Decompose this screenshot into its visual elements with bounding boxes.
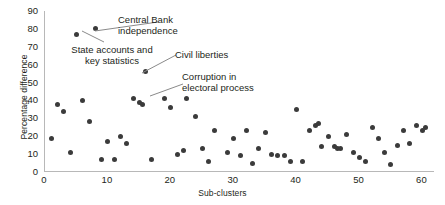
data-point xyxy=(363,159,368,164)
x-tick-label: 40 xyxy=(290,175,301,185)
data-point xyxy=(294,107,299,112)
y-tick-label: 40 xyxy=(12,95,38,105)
data-point xyxy=(175,152,180,157)
data-point xyxy=(423,125,428,130)
data-point xyxy=(256,146,261,151)
x-axis-title: Sub-clusters xyxy=(0,188,445,198)
data-point xyxy=(193,114,198,119)
data-point xyxy=(80,98,85,103)
data-point xyxy=(181,148,186,153)
x-tick-label: 10 xyxy=(102,175,113,185)
y-tick-label: 20 xyxy=(12,131,38,141)
data-point xyxy=(269,152,274,157)
x-tick-label: 60 xyxy=(416,175,427,185)
data-point xyxy=(61,109,66,114)
data-point xyxy=(87,119,92,124)
y-tick-label: 30 xyxy=(12,113,38,123)
annotation-state-accounts: State accounts and key statistics xyxy=(49,44,175,66)
data-point xyxy=(414,123,419,128)
data-point xyxy=(357,155,362,160)
data-point xyxy=(225,150,230,155)
data-point xyxy=(407,141,412,146)
data-point xyxy=(244,128,249,133)
data-point xyxy=(162,96,167,101)
data-point xyxy=(282,153,287,158)
data-point xyxy=(143,69,148,74)
data-point xyxy=(231,136,236,141)
y-tick-label: 0 xyxy=(12,167,38,177)
x-tick-label: 30 xyxy=(227,175,238,185)
data-point xyxy=(307,128,312,133)
data-point xyxy=(344,132,349,137)
data-point xyxy=(124,141,129,146)
x-tick-label: 50 xyxy=(353,175,364,185)
y-tick-label: 10 xyxy=(12,149,38,159)
data-point xyxy=(206,159,211,164)
data-point xyxy=(382,150,387,155)
data-point xyxy=(238,153,243,158)
y-tick-label: 60 xyxy=(12,60,38,70)
data-point xyxy=(131,96,136,101)
data-point xyxy=(68,150,73,155)
x-tick-label: 0 xyxy=(41,175,46,185)
data-point xyxy=(326,134,331,139)
data-point xyxy=(401,128,406,133)
x-tick-label: 20 xyxy=(165,175,176,185)
data-point xyxy=(395,143,400,148)
data-point xyxy=(316,121,321,126)
annotation-corruption: Corruption in electoral process xyxy=(182,71,254,93)
y-tick-label: 70 xyxy=(12,42,38,52)
data-point xyxy=(351,150,356,155)
data-point xyxy=(200,146,205,151)
data-point xyxy=(140,102,145,107)
data-point xyxy=(55,102,60,107)
data-point xyxy=(263,130,268,135)
data-point xyxy=(149,157,154,162)
data-point xyxy=(300,159,305,164)
y-axis-tick-labels: 0102030405060708090 xyxy=(8,0,38,205)
annotation-civil-liberties: Civil liberties xyxy=(175,49,228,60)
data-point xyxy=(275,153,280,158)
annotation-central-bank: Central Bank independence xyxy=(118,14,178,36)
data-point xyxy=(250,161,255,166)
data-point xyxy=(74,32,79,37)
y-tick-label: 90 xyxy=(12,6,38,16)
data-point xyxy=(93,26,98,31)
data-point xyxy=(184,96,189,101)
data-point xyxy=(288,159,293,164)
data-point xyxy=(49,136,54,141)
data-point xyxy=(370,125,375,130)
data-point xyxy=(105,139,110,144)
data-point xyxy=(99,157,104,162)
data-point xyxy=(168,105,173,110)
y-tick-label: 50 xyxy=(12,78,38,88)
data-point xyxy=(118,134,123,139)
data-point xyxy=(112,157,117,162)
data-point xyxy=(376,136,381,141)
y-tick-label: 80 xyxy=(12,24,38,34)
data-point xyxy=(388,162,393,167)
scatter-chart: Percentage difference 010203040506070809… xyxy=(0,0,445,205)
data-point xyxy=(319,144,324,149)
data-point xyxy=(212,128,217,133)
data-point xyxy=(338,146,343,151)
